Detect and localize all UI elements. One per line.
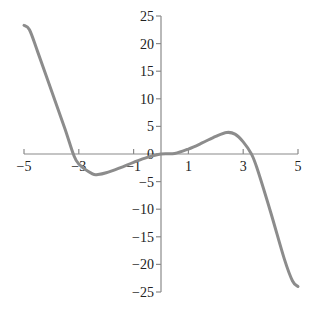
y-tick-label: −15 [132, 230, 154, 245]
y-tick-label: −20 [132, 257, 154, 272]
x-tick-label: −3 [71, 159, 86, 174]
function-plot: −5−3−11352520151050−5−10−15−20−25 [0, 0, 313, 311]
y-tick-label: 20 [140, 37, 154, 52]
x-tick-label: 3 [240, 159, 247, 174]
y-tick-label: −5 [139, 175, 154, 190]
y-tick-label: −25 [132, 285, 154, 300]
x-tick-label: 1 [185, 159, 192, 174]
x-tick-label: 5 [295, 159, 302, 174]
x-tick-label: −5 [17, 159, 32, 174]
y-tick-label: 5 [147, 119, 154, 134]
y-tick-label: −10 [132, 202, 154, 217]
y-tick-label: 15 [140, 64, 154, 79]
y-tick-label: 25 [140, 9, 154, 24]
y-tick-label: 10 [140, 92, 154, 107]
